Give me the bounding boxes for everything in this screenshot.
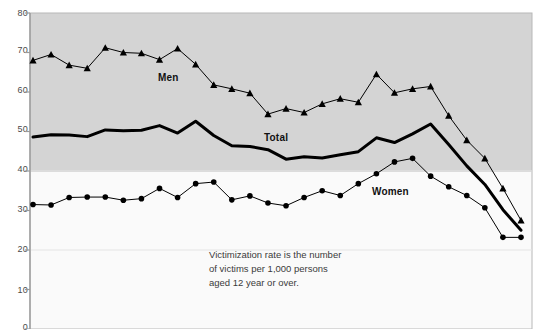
data-point [175, 195, 181, 201]
data-point [410, 156, 416, 162]
data-point [337, 193, 343, 199]
data-point [392, 159, 398, 165]
data-point [265, 200, 271, 206]
data-point [193, 181, 199, 187]
series-label-men: Men [158, 72, 179, 83]
data-point [211, 179, 217, 185]
data-point [84, 194, 90, 200]
data-point [464, 193, 470, 199]
data-point [30, 202, 36, 208]
data-point [247, 193, 253, 199]
data-point [121, 197, 127, 203]
data-point [428, 173, 434, 179]
data-point [229, 197, 235, 203]
data-point [301, 195, 307, 201]
data-point [283, 203, 289, 209]
data-point [446, 184, 452, 190]
data-point [500, 235, 506, 241]
data-point [48, 202, 54, 208]
data-point [157, 186, 163, 192]
data-point [482, 205, 488, 211]
series-label-total: Total [264, 132, 288, 143]
data-point [319, 188, 325, 194]
data-point [374, 171, 380, 177]
data-point [66, 195, 72, 201]
chart-note: Victimization rate is the number of vict… [209, 248, 341, 290]
data-point [103, 194, 109, 200]
axis-ticks [25, 13, 30, 329]
data-point [356, 181, 362, 187]
data-point [139, 196, 145, 202]
series-label-women: Women [372, 186, 409, 197]
data-point [518, 235, 524, 241]
